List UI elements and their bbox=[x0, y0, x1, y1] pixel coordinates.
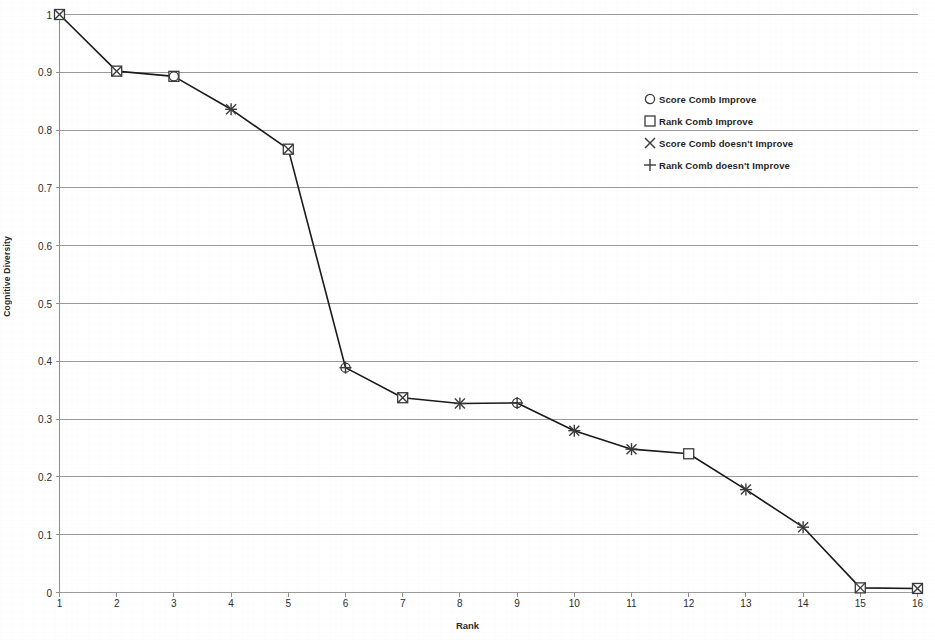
cognitive-diversity-chart: 00.10.20.30.40.50.60.70.80.91 1234567891… bbox=[0, 0, 935, 640]
data-point bbox=[169, 71, 179, 81]
x-axis-tick-label: 6 bbox=[331, 598, 361, 609]
plus-marker-icon bbox=[643, 158, 657, 172]
y-axis-tick-label: 0 bbox=[8, 587, 52, 598]
legend-item: Score Comb doesn't Improve bbox=[643, 132, 873, 154]
x-axis-tick-label: 15 bbox=[845, 598, 875, 609]
x-axis-tick-label: 3 bbox=[159, 598, 189, 609]
x-axis-tick-label: 11 bbox=[617, 598, 647, 609]
circle-marker-icon bbox=[643, 92, 657, 106]
data-point bbox=[283, 144, 293, 154]
data-point bbox=[398, 393, 408, 403]
x-axis-tick-label: 9 bbox=[502, 598, 532, 609]
x-axis-tick-label: 7 bbox=[388, 598, 418, 609]
x-axis-tick-label: 1 bbox=[45, 598, 75, 609]
data-point bbox=[340, 362, 352, 374]
x-axis-tick-label: 4 bbox=[216, 598, 246, 609]
y-axis-tick-label: 0.9 bbox=[8, 67, 52, 78]
x-axis-tick-label: 12 bbox=[674, 598, 704, 609]
data-point bbox=[55, 10, 65, 20]
data-point bbox=[112, 66, 122, 76]
legend-item-label: Score Comb doesn't Improve bbox=[659, 138, 793, 149]
y-axis-tick-label: 0.7 bbox=[8, 182, 52, 193]
x-axis-tick-label: 10 bbox=[559, 598, 589, 609]
legend-item: Score Comb Improve bbox=[643, 88, 873, 110]
x-axis-tick-label: 5 bbox=[273, 598, 303, 609]
x-axis-title: Rank bbox=[0, 620, 935, 631]
data-point bbox=[684, 449, 694, 459]
legend-item: Rank Comb doesn't Improve bbox=[643, 154, 873, 176]
x-axis-tick-label: 16 bbox=[903, 598, 933, 609]
legend-item: Rank Comb Improve bbox=[643, 110, 873, 132]
data-point bbox=[855, 583, 865, 593]
y-axis-tick-labels: 00.10.20.30.40.50.60.70.80.91 bbox=[0, 0, 52, 640]
data-point bbox=[454, 397, 466, 409]
y-axis-tick-label: 1 bbox=[8, 9, 52, 20]
y-axis-tick-label: 0.8 bbox=[8, 125, 52, 136]
x-axis-tick-label: 14 bbox=[788, 598, 818, 609]
data-point bbox=[626, 443, 638, 455]
legend-item-label: Rank Comb Improve bbox=[659, 116, 753, 127]
y-axis-tick-label: 0.2 bbox=[8, 471, 52, 482]
x-axis-tick-label: 13 bbox=[731, 598, 761, 609]
data-point bbox=[913, 583, 923, 593]
data-point bbox=[740, 484, 752, 496]
y-axis-title: Cognitive Diversity bbox=[2, 236, 18, 317]
chart-legend: Score Comb ImproveRank Comb ImproveScore… bbox=[643, 88, 873, 176]
data-point bbox=[225, 103, 237, 115]
data-point bbox=[511, 397, 523, 409]
y-axis-tick-label: 0.3 bbox=[8, 414, 52, 425]
x-axis-tick-label: 8 bbox=[445, 598, 475, 609]
square-marker-icon bbox=[643, 114, 657, 128]
x-marker-icon bbox=[643, 136, 657, 150]
x-axis-tick-label: 2 bbox=[102, 598, 132, 609]
y-axis-tick-label: 0.1 bbox=[8, 529, 52, 540]
legend-item-label: Rank Comb doesn't Improve bbox=[659, 160, 790, 171]
data-point bbox=[797, 521, 809, 533]
y-axis-tick-label: 0.4 bbox=[8, 356, 52, 367]
legend-item-label: Score Comb Improve bbox=[659, 94, 756, 105]
data-point bbox=[568, 425, 580, 437]
